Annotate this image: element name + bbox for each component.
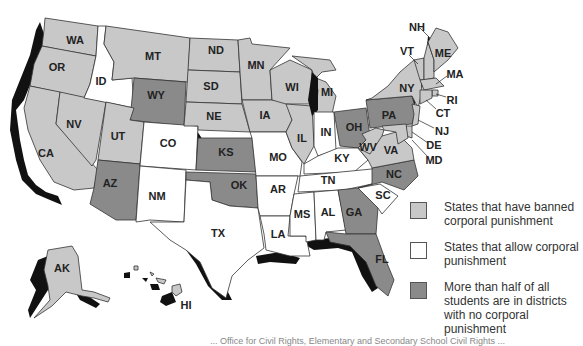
label-VA: VA (384, 144, 398, 156)
label-SD: SD (203, 80, 218, 92)
label-UT: UT (111, 130, 126, 142)
state-AZ[interactable] (90, 160, 140, 220)
label-TX: TX (211, 227, 225, 239)
label-ID: ID (96, 75, 107, 87)
label-ME: ME (435, 47, 452, 59)
label-MI: MI (321, 86, 333, 98)
state-WY[interactable] (130, 78, 186, 126)
label-KY: KY (334, 152, 349, 164)
label-HI: HI (181, 299, 192, 311)
label-MN: MN (247, 59, 264, 71)
label-NE: NE (206, 110, 221, 122)
label-MO: MO (269, 151, 287, 163)
label-SC: SC (375, 189, 390, 201)
label-IA: IA (260, 109, 271, 121)
legend-label-banned: States that have banned corporal punishm… (444, 200, 583, 228)
label-NJ: NJ (435, 125, 449, 137)
state-RI[interactable] (432, 90, 438, 96)
label-NY: NY (399, 82, 414, 94)
label-IN: IN (321, 126, 332, 138)
label-OR: OR (49, 61, 66, 73)
legend-swatch-banned (410, 202, 427, 219)
label-VT: VT (400, 45, 414, 57)
label-CT: CT (436, 107, 451, 119)
label-GA: GA (346, 206, 363, 218)
source-note: ... Office for Civil Rights, Elementary … (210, 336, 505, 346)
label-RI: RI (447, 94, 458, 106)
label-AR: AR (270, 183, 286, 195)
legend-swatch-allow (410, 242, 427, 259)
label-MS: MS (294, 208, 311, 220)
label-KS: KS (218, 146, 233, 158)
state-MA[interactable] (420, 78, 444, 90)
label-AK: AK (54, 262, 70, 274)
label-CA: CA (38, 147, 54, 159)
legend-label-half: More than half of all students are in di… (444, 280, 583, 336)
state-CT[interactable] (420, 90, 432, 104)
label-PA: PA (382, 109, 396, 121)
label-LA: LA (271, 228, 286, 240)
label-MD: MD (425, 154, 442, 166)
label-OH: OH (346, 121, 363, 133)
legend-label-allow: States that allow corporal punishment (444, 240, 583, 268)
state-HI[interactable] (134, 266, 182, 296)
label-TN: TN (321, 174, 336, 186)
legend-swatch-half (410, 282, 427, 299)
label-DE: DE (426, 139, 441, 151)
label-OK: OK (231, 179, 248, 191)
label-IL: IL (297, 132, 307, 144)
label-ND: ND (208, 44, 224, 56)
label-NH: NH (409, 21, 425, 33)
label-WV: WV (359, 141, 377, 153)
label-MA: MA (446, 68, 463, 80)
hawaii-shadow (124, 272, 176, 306)
label-CO: CO (160, 137, 177, 149)
label-WA: WA (66, 34, 84, 46)
label-WI: WI (285, 81, 298, 93)
label-FL: FL (375, 253, 388, 265)
label-AZ: AZ (103, 177, 118, 189)
label-NV: NV (66, 118, 81, 130)
label-AL: AL (321, 206, 336, 218)
label-WY: WY (147, 89, 165, 101)
label-MT: MT (145, 50, 161, 62)
label-NC: NC (386, 168, 402, 180)
label-NM: NM (148, 190, 165, 202)
